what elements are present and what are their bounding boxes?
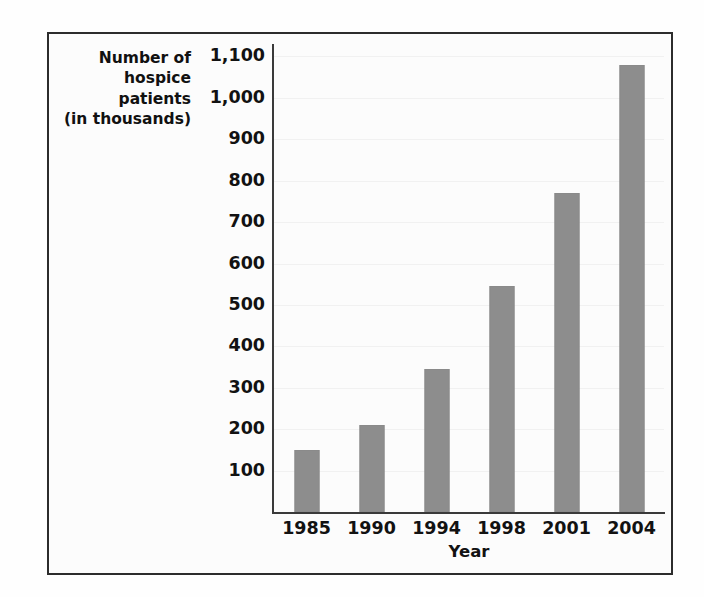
bar [294, 450, 319, 512]
bar [554, 193, 579, 512]
y-tick-label: 600 [191, 255, 265, 273]
y-axis-line [272, 44, 274, 514]
bar [359, 425, 384, 512]
bar-slot [535, 44, 599, 512]
y-tick-label: 700 [191, 213, 265, 231]
y-axis-tick-labels: 1002003004005006007008009001,0001,100 [189, 34, 265, 573]
y-tick-label: 800 [191, 172, 265, 190]
y-tick-label: 100 [191, 462, 265, 480]
y-tick-label: 300 [191, 379, 265, 397]
y-tick-label: 200 [191, 420, 265, 438]
figure-page: Number of hospice patients (in thousands… [0, 0, 704, 597]
figure-frame: Number of hospice patients (in thousands… [47, 32, 673, 575]
x-axis-title: Year [274, 542, 664, 561]
y-tick-label: 1,100 [191, 48, 265, 66]
y-tick-label: 900 [191, 131, 265, 149]
x-axis-line [272, 512, 665, 514]
x-tick-label: 2001 [535, 518, 599, 538]
bar [489, 286, 514, 512]
y-axis-title-line-3: patients [59, 89, 191, 109]
y-tick-label: 400 [191, 338, 265, 356]
y-tick-label: 1,000 [191, 89, 265, 107]
bar [424, 369, 449, 512]
bar-slot [600, 44, 664, 512]
y-axis-title-line-1: Number of [59, 48, 191, 68]
x-tick-label: 1985 [275, 518, 339, 538]
plot-area [274, 44, 664, 512]
bar-chart: Number of hospice patients (in thousands… [49, 34, 671, 573]
y-axis-title: Number of hospice patients (in thousands… [59, 48, 191, 130]
y-axis-title-line-4: (in thousands) [59, 109, 191, 129]
x-tick-label: 1994 [405, 518, 469, 538]
bar-slot [470, 44, 534, 512]
bar-slot [340, 44, 404, 512]
x-tick-label: 1998 [470, 518, 534, 538]
bar-slot [405, 44, 469, 512]
y-tick-label: 500 [191, 296, 265, 314]
bar [619, 65, 644, 512]
y-axis-title-line-2: hospice [59, 68, 191, 88]
bar-slot [275, 44, 339, 512]
x-tick-label: 2004 [600, 518, 664, 538]
x-tick-label: 1990 [340, 518, 404, 538]
